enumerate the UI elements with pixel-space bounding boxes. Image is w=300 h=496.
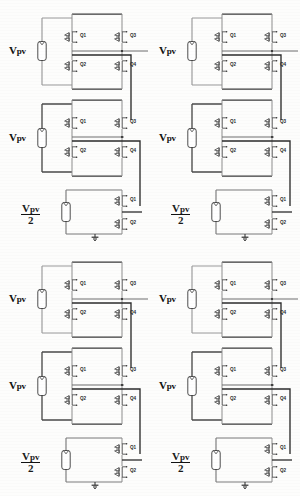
switch-label-s1-q2: Q2	[230, 63, 236, 68]
fraction-denominator: 2	[171, 463, 190, 474]
switch-label-s1-q1: Q1	[230, 282, 236, 287]
source-label-stage1: Vpv	[159, 293, 176, 304]
source-label-stage1: Vpv	[9, 45, 26, 56]
topology-bottom-right: Vpv Vpv Vpv 2 Q1 Q3 Q2 Q4 Q1 Q3 Q2 Q4 Q1…	[150, 248, 300, 496]
dc-source-icon	[38, 129, 46, 148]
switch-label-s3-q1: Q1	[130, 446, 136, 451]
fraction-denominator: 2	[21, 215, 40, 226]
source-label-stage3: Vpv 2	[171, 203, 190, 226]
dc-source-icon	[38, 42, 46, 61]
switch-label-s1-q4: Q4	[130, 63, 136, 68]
switch-label-s3-q2: Q2	[130, 221, 136, 226]
switch-label-s2-q2: Q2	[80, 397, 86, 402]
dc-source-icon	[212, 203, 220, 222]
source-label-stage2: Vpv	[159, 380, 176, 391]
ground-icon	[92, 234, 99, 241]
dc-source-icon	[212, 451, 220, 470]
topology-bottom-left: Vpv Vpv Vpv 2 Q1 Q3 Q2 Q4 Q1 Q3 Q2 Q4 Q1…	[0, 248, 150, 496]
dc-source-icon	[188, 129, 196, 148]
switch-label-s3-q2: Q2	[280, 469, 286, 474]
source-label-stage3: Vpv 2	[171, 451, 190, 474]
switch-label-s1-q2: Q2	[80, 63, 86, 68]
dc-source-icon	[38, 377, 46, 396]
switch-label-s3-q1: Q1	[280, 446, 286, 451]
switch-label-s2-q2: Q2	[230, 397, 236, 402]
switch-label-s3-q2: Q2	[130, 469, 136, 474]
dc-source-icon	[62, 451, 70, 470]
dc-source-icon	[62, 203, 70, 222]
ground-icon	[242, 482, 249, 489]
source-label-stage2: Vpv	[9, 132, 26, 143]
switch-label-s1-q3: Q3	[130, 282, 136, 287]
switch-label-s2-q3: Q3	[280, 368, 286, 373]
source-label-stage1: Vpv	[9, 293, 26, 304]
switch-label-s1-q1: Q1	[80, 282, 86, 287]
source-label-stage3: Vpv 2	[21, 451, 40, 474]
switch-label-s1-q2: Q2	[230, 311, 236, 316]
switch-label-s1-q3: Q3	[280, 34, 286, 39]
topology-top-right: Vpv Vpv Vpv 2 Q1 Q3 Q2 Q4 Q1 Q3 Q2 Q4 Q1…	[150, 0, 300, 248]
fraction-denominator: 2	[21, 463, 40, 474]
switch-label-s2-q1: Q1	[80, 368, 86, 373]
switch-label-s1-q3: Q3	[130, 34, 136, 39]
switch-label-s1-q4: Q4	[280, 311, 286, 316]
switch-label-s2-q1: Q1	[230, 368, 236, 373]
switch-label-s2-q3: Q3	[130, 368, 136, 373]
dc-source-icon	[38, 290, 46, 309]
switch-label-s2-q4: Q4	[280, 149, 286, 154]
ground-icon	[92, 482, 99, 489]
switch-label-s2-q4: Q4	[130, 397, 136, 402]
source-label-stage3: Vpv 2	[21, 203, 40, 226]
switch-label-s3-q1: Q1	[280, 198, 286, 203]
switch-label-s2-q4: Q4	[280, 397, 286, 402]
switch-label-s1-q4: Q4	[280, 63, 286, 68]
source-label-stage2: Vpv	[9, 380, 26, 391]
switch-label-s2-q1: Q1	[80, 120, 86, 125]
switch-label-s1-q2: Q2	[80, 311, 86, 316]
source-label-stage2: Vpv	[159, 132, 176, 143]
switch-label-s1-q3: Q3	[280, 282, 286, 287]
switch-label-s2-q2: Q2	[80, 149, 86, 154]
circuit-figure: Vpv Vpv Vpv 2 Q1 Q3 Q2 Q4 Q1 Q3 Q2 Q4 Q1…	[0, 0, 300, 496]
switch-label-s3-q1: Q1	[130, 198, 136, 203]
switch-label-s2-q2: Q2	[230, 149, 236, 154]
switch-label-s1-q1: Q1	[80, 34, 86, 39]
dc-source-icon	[188, 290, 196, 309]
switch-label-s2-q3: Q3	[280, 120, 286, 125]
switch-label-s1-q1: Q1	[230, 34, 236, 39]
switch-label-s2-q4: Q4	[130, 149, 136, 154]
switch-label-s3-q2: Q2	[280, 221, 286, 226]
switch-label-s2-q1: Q1	[230, 120, 236, 125]
switch-label-s1-q4: Q4	[130, 311, 136, 316]
dc-source-icon	[188, 377, 196, 396]
dc-source-icon	[188, 42, 196, 61]
topology-top-left: Vpv Vpv Vpv 2 Q1 Q3 Q2 Q4 Q1 Q3 Q2 Q4 Q1…	[0, 0, 150, 248]
ground-icon	[242, 234, 249, 241]
switch-label-s2-q3: Q3	[130, 120, 136, 125]
source-label-stage1: Vpv	[159, 45, 176, 56]
fraction-denominator: 2	[171, 215, 190, 226]
